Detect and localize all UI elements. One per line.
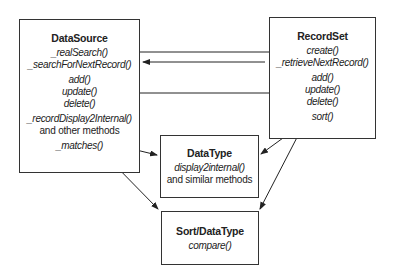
datasource-box: DataSource _realSearch() _searchForNextR…: [19, 19, 140, 173]
datatype-box: DataType display2internal() and similar …: [160, 135, 259, 198]
method-searchfornextrecord: _searchForNextRecord(): [20, 59, 139, 71]
method-retrievenextrecord: _retrieveNextRecord(): [270, 57, 375, 69]
similar-methods-note: and similar methods: [161, 174, 258, 186]
method-update: update(): [270, 84, 375, 96]
method-delete: delete(): [270, 96, 375, 108]
method-update: update(): [20, 86, 139, 98]
method-recorddisplay2internal: _recordDisplay2Internal(): [20, 113, 139, 125]
datatype-title: DataType: [161, 147, 258, 159]
method-display2internal: display2internal(): [161, 162, 258, 174]
method-add: add(): [270, 72, 375, 84]
method-matches: _matches(): [20, 140, 139, 152]
other-methods-note: and other methods: [20, 125, 139, 137]
sortdatatype-box: Sort/DataType compare(): [161, 211, 259, 265]
method-compare: compare(): [162, 240, 258, 252]
recordset-box: RecordSet create() _retrieveNextRecord()…: [269, 17, 376, 139]
datasource-title: DataSource: [20, 32, 139, 44]
method-delete: delete(): [20, 98, 139, 110]
recordset-title: RecordSet: [270, 30, 375, 42]
method-create: create(): [270, 45, 375, 57]
method-add: add(): [20, 74, 139, 86]
method-realsearch: _realSearch(): [20, 47, 139, 59]
method-sort: sort(): [270, 111, 375, 123]
sortdatatype-title: Sort/DataType: [162, 225, 258, 237]
